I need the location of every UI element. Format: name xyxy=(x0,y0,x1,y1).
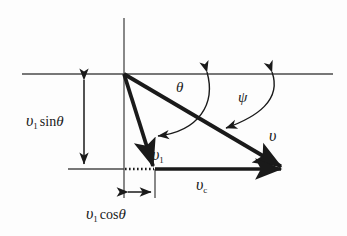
reference-axes xyxy=(22,18,333,198)
label-vc-subscript: c xyxy=(203,185,207,195)
label-v1-cos-theta: υ1cosθ xyxy=(86,206,126,222)
label-v: υ xyxy=(269,128,276,144)
label-v-symbol: υ xyxy=(269,127,276,144)
theta-arc xyxy=(158,72,209,136)
label-v1: υ1 xyxy=(152,147,164,163)
vector-diagram-figure: υ1sinθ υ1cosθ υ1 υc υ θ ψ xyxy=(0,0,347,236)
label-v1-cos-theta-function: cos xyxy=(98,207,119,222)
psi-arc xyxy=(226,72,274,128)
label-v1-cos-theta-subscript: 1 xyxy=(93,214,98,224)
label-psi: ψ xyxy=(238,90,247,105)
label-vc: υc xyxy=(196,177,207,193)
label-v1-sin-theta-subscript: 1 xyxy=(33,121,38,131)
vector-group xyxy=(124,74,281,169)
label-v1-cos-theta-angle: θ xyxy=(119,206,126,222)
label-psi-symbol: ψ xyxy=(238,89,247,105)
label-v1-sin-theta-angle: θ xyxy=(56,113,63,129)
label-v1-subscript: 1 xyxy=(159,155,164,165)
label-v1-sin-theta: υ1sinθ xyxy=(26,113,64,129)
label-theta: θ xyxy=(176,80,183,95)
label-theta-symbol: θ xyxy=(176,79,183,95)
label-v1-sin-theta-function: sin xyxy=(38,114,56,129)
dimension-arrows xyxy=(84,80,151,192)
